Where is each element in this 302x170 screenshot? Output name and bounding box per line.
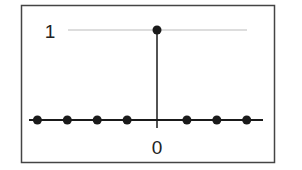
stem-marker [242,116,251,125]
stem-marker [212,116,221,125]
y-tick-label-1: 1 [45,21,56,42]
impulse-stem-plot: 1 0 [0,0,302,170]
stem-marker [33,116,42,125]
stem-marker [182,116,191,125]
stem-marker [153,26,162,35]
plot-frame [22,6,275,163]
stem-marker [63,116,72,125]
stem-marker [93,116,102,125]
x-tick-label-0: 0 [152,137,163,158]
stem-marker [123,116,132,125]
